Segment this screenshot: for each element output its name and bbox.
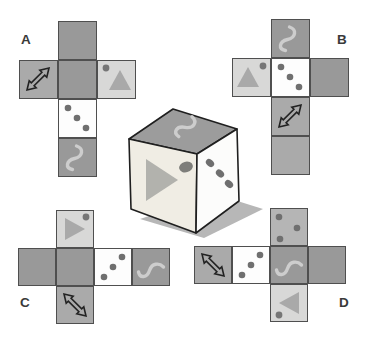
pip-dot-icon	[65, 105, 72, 112]
pip-dot-icon	[294, 225, 301, 232]
net-D-square-three-dots	[271, 209, 308, 246]
net-B-square-blank	[272, 137, 310, 175]
net-A-square-blank	[59, 22, 97, 60]
net-square	[20, 61, 58, 99]
net-square	[271, 209, 308, 246]
net-square	[311, 59, 349, 97]
option-label-b: B	[337, 33, 347, 47]
pip-dot-icon	[278, 64, 285, 71]
pip-dot-icon	[248, 262, 255, 269]
net-A-square-s-curve	[59, 139, 97, 177]
pip-dot-icon	[276, 312, 283, 319]
net-A-square-blank	[59, 61, 97, 99]
pip-dot-icon	[276, 214, 283, 221]
net-square	[309, 247, 346, 284]
net-B-square-triangle	[233, 59, 271, 97]
net-A-square-triangle	[98, 61, 136, 99]
pip-dot-icon	[296, 84, 303, 91]
pip-dot-icon	[74, 115, 81, 122]
net-square	[272, 137, 310, 175]
pip-dot-icon	[277, 236, 284, 243]
pip-dot-icon	[101, 274, 108, 281]
net-B-square-s-curve	[272, 20, 310, 58]
net-square	[19, 249, 56, 286]
net-D-square-blank	[309, 247, 346, 284]
net-A-square-three-dots	[59, 100, 97, 138]
net-D-square-s-curve	[271, 247, 308, 284]
net-square	[195, 247, 232, 284]
net-square	[57, 249, 94, 286]
pip-dot-icon	[119, 254, 126, 261]
net-D-square-double-arrow	[195, 247, 232, 284]
option-label-a: A	[21, 33, 31, 47]
net-C-square-double-arrow	[57, 287, 94, 324]
puzzle-scene	[0, 0, 369, 348]
net-C-square-blank	[57, 249, 94, 286]
net-A-square-double-arrow	[20, 61, 58, 99]
pip-dot-icon	[239, 272, 246, 279]
option-label-c: C	[20, 296, 30, 310]
pip-dot-icon	[110, 264, 117, 271]
pip-dot-icon	[287, 74, 294, 81]
center-cube	[129, 109, 263, 238]
puzzle-canvas: A B C D	[0, 0, 369, 348]
net-square	[272, 98, 310, 136]
net-B-square-double-arrow	[272, 98, 310, 136]
net-option-B	[233, 20, 349, 175]
net-B-square-three-dots	[272, 59, 310, 97]
net-square	[59, 61, 97, 99]
net-C-square-blank	[19, 249, 56, 286]
net-C-square-triangle	[57, 211, 94, 248]
pip-dot-icon	[83, 214, 90, 221]
pip-dot-icon	[257, 252, 264, 259]
net-square	[57, 287, 94, 324]
net-option-C	[19, 211, 170, 324]
net-square	[59, 22, 97, 60]
net-D-square-three-dots	[233, 247, 270, 284]
option-label-d: D	[339, 296, 349, 310]
pip-dot-icon	[260, 63, 267, 70]
net-B-square-blank	[311, 59, 349, 97]
net-C-square-s-curve	[133, 249, 170, 286]
net-D-square-triangle	[271, 285, 308, 322]
net-option-A	[20, 22, 136, 177]
net-C-square-three-dots	[95, 249, 132, 286]
pip-dot-icon	[83, 125, 90, 132]
pip-dot-icon	[103, 65, 110, 72]
